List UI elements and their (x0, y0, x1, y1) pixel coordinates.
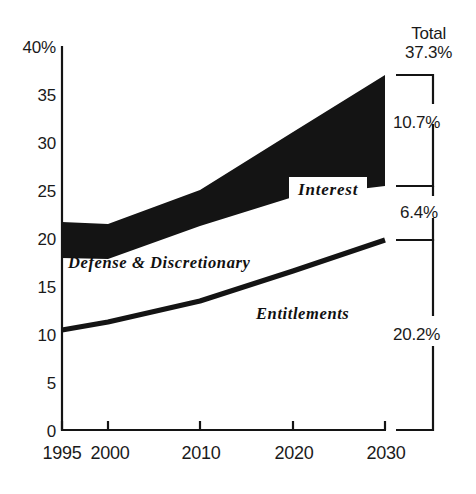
y-tick-25: 25 (8, 183, 56, 200)
annotation-interest-value: 10.7% (393, 113, 440, 132)
y-tick-20: 20 (8, 231, 56, 248)
x-tick-1995: 1995 (43, 444, 82, 462)
annotation-total-word: Total (405, 24, 452, 43)
chart-plot-area (0, 0, 476, 494)
x-tick-2000: 2000 (91, 444, 130, 462)
series-label-entitlements: Entitlements (256, 306, 349, 323)
series-label-interest: Interest (289, 177, 367, 203)
interest-band-area (62, 75, 385, 259)
annotation-total-value: 37.3% (405, 43, 452, 62)
annotation-entitlements-value: 20.2% (393, 325, 440, 344)
y-tick-5: 5 (8, 375, 56, 392)
annotation-total: Total 37.3% (405, 24, 452, 62)
x-tick-2030: 2030 (367, 444, 406, 462)
y-tick-40: 40% (8, 39, 56, 56)
y-tick-30: 30 (8, 135, 56, 152)
y-tick-15: 15 (8, 279, 56, 296)
x-tick-2010: 2010 (182, 444, 221, 462)
x-tick-2020: 2020 (275, 444, 314, 462)
y-tick-35: 35 (8, 87, 56, 104)
spending-projection-chart: 40% 35 30 25 20 15 10 5 0 1995 2000 2010… (0, 0, 476, 494)
x-axis-ticks (62, 421, 385, 430)
y-tick-0: 0 (8, 423, 56, 440)
series-label-defense-discretionary: Defense & Discretionary (68, 255, 250, 272)
annotation-defense-value: 6.4% (400, 203, 438, 222)
y-axis-labels: 40% 35 30 25 20 15 10 5 0 (0, 0, 56, 494)
y-tick-10: 10 (8, 327, 56, 344)
